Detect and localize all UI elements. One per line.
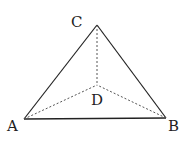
vertex-label-c: C (71, 13, 82, 31)
edge-bd-hidden (97, 85, 166, 118)
vertex-label-b: B (168, 117, 179, 135)
vertex-label-d: D (91, 91, 103, 109)
edge-bc (97, 25, 166, 118)
edge-ad-hidden (24, 85, 97, 119)
edge-ac (24, 25, 97, 119)
tetrahedron-diagram: C D A B (0, 0, 186, 149)
edge-ab (24, 118, 166, 119)
vertex-label-a: A (6, 117, 18, 135)
